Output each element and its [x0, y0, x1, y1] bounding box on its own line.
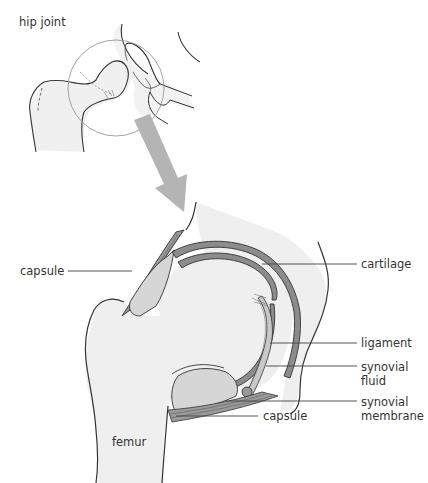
- zoom-arrow: [134, 114, 187, 212]
- label-capsule-left: capsule: [20, 264, 64, 278]
- hip-joint-diagram: hip joint: [0, 0, 428, 483]
- overview-illustration: [30, 24, 200, 152]
- label-hip-joint: hip joint: [19, 15, 66, 29]
- label-capsule-bottom: capsule: [263, 409, 307, 423]
- label-synovial-membrane-line1: synovial: [361, 395, 408, 409]
- label-cartilage: cartilage: [361, 257, 411, 271]
- label-ligament: ligament: [361, 336, 412, 350]
- label-femur: femur: [112, 435, 147, 449]
- label-synovial-fluid-line1: synovial: [361, 360, 408, 374]
- femur-overview: [30, 60, 133, 152]
- label-synovial-fluid-line2: fluid: [361, 374, 386, 388]
- label-synovial-membrane-line2: membrane: [361, 409, 424, 423]
